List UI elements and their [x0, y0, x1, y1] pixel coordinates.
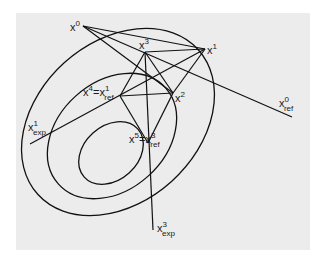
label-x0: x0: [70, 19, 81, 33]
label-x3exp: x3exp: [157, 220, 175, 238]
label-x4-eq-x1ref: x4=x1ref: [83, 84, 114, 102]
contour-inner: [66, 109, 156, 197]
label-x1exp: x1exp: [28, 119, 46, 137]
simplex-diagram: x0 x3 x1 x2 x4=x1ref x5=x3ref x0ref x1ex…: [0, 0, 324, 261]
label-x5-eq-x3ref: x5=x3ref: [129, 131, 160, 149]
edge-x3-x2: [145, 52, 173, 93]
label-x3: x3: [139, 37, 150, 51]
label-x2: x2: [175, 90, 186, 104]
edge-x1-x2: [173, 49, 205, 93]
label-x0ref: x0ref: [279, 95, 294, 113]
label-x1: x1: [207, 42, 218, 56]
edge-x3-x1: [145, 49, 205, 52]
contour-middle: [22, 48, 201, 225]
